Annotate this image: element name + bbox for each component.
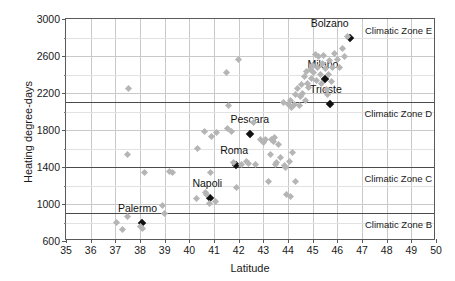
- data-point: [124, 151, 131, 158]
- x-tick: [288, 239, 289, 243]
- x-tick-label: 41: [208, 244, 220, 256]
- y-tick-minor: [64, 149, 66, 150]
- data-point: [265, 178, 272, 185]
- x-axis-title: Latitude: [65, 262, 435, 274]
- x-tick: [66, 239, 67, 243]
- x-tick-label: 39: [159, 244, 171, 256]
- data-point-labelled: [326, 100, 334, 108]
- data-point: [141, 169, 148, 176]
- x-tick: [337, 239, 338, 243]
- gridline-vertical: [288, 19, 289, 239]
- y-tick-minor: [64, 223, 66, 224]
- x-tick-label: 48: [381, 244, 393, 256]
- data-point: [169, 169, 176, 176]
- y-tick-minor: [64, 38, 66, 39]
- x-tick: [115, 239, 116, 243]
- y-tick-minor: [64, 186, 66, 187]
- x-tick-label: 49: [405, 244, 417, 256]
- zone-divider-line: [66, 102, 434, 103]
- data-point: [207, 169, 214, 176]
- y-tick-label: 2200: [37, 87, 60, 99]
- data-point: [339, 45, 346, 52]
- data-point: [201, 128, 208, 135]
- x-tick: [189, 239, 190, 243]
- x-tick: [362, 239, 363, 243]
- city-label-roma: Roma: [220, 144, 248, 156]
- x-tick-label: 38: [134, 244, 146, 256]
- data-point: [267, 151, 274, 158]
- data-point: [124, 213, 131, 220]
- city-label-palermo: Palermo: [118, 202, 157, 214]
- x-tick-label: 42: [233, 244, 245, 256]
- y-tick-label: 2600: [37, 50, 60, 62]
- gridline-horizontal-minor: [66, 149, 434, 150]
- y-tick: [62, 130, 66, 131]
- x-tick: [214, 239, 215, 243]
- gridline-vertical: [263, 19, 264, 239]
- x-tick-label: 50: [430, 244, 442, 256]
- gridline-vertical: [115, 19, 116, 239]
- x-tick-label: 46: [331, 244, 343, 256]
- gridline-horizontal-minor: [66, 186, 434, 187]
- gridline-vertical: [239, 19, 240, 239]
- data-point: [194, 145, 201, 152]
- y-tick: [62, 19, 66, 20]
- gridline-horizontal-minor: [66, 75, 434, 76]
- zone-divider-line: [66, 167, 434, 168]
- x-tick-label: 40: [183, 244, 195, 256]
- x-tick: [387, 239, 388, 243]
- x-tick: [140, 239, 141, 243]
- gridline-horizontal: [66, 93, 434, 94]
- y-tick-minor: [64, 75, 66, 76]
- data-point: [292, 178, 299, 185]
- y-tick: [62, 167, 66, 168]
- y-tick-label: 1000: [37, 198, 60, 210]
- x-tick: [436, 239, 437, 243]
- data-point: [113, 219, 120, 226]
- data-point: [299, 89, 306, 96]
- x-tick-label: 35: [60, 244, 72, 256]
- gridline-vertical: [411, 19, 412, 239]
- gridline-horizontal-minor: [66, 38, 434, 39]
- y-tick-label: 600: [42, 235, 60, 247]
- x-tick: [91, 239, 92, 243]
- x-tick-label: 37: [109, 244, 121, 256]
- data-point: [193, 195, 200, 202]
- x-tick-label: 44: [282, 244, 294, 256]
- gridline-vertical: [189, 19, 190, 239]
- y-axis-title: Heating degree-days: [22, 42, 34, 222]
- zone-label: Climatic Zone B: [365, 219, 432, 230]
- x-tick: [165, 239, 166, 243]
- plot-area: Climatic Zone EClimatic Zone DClimatic Z…: [65, 18, 435, 240]
- y-tick-label: 1400: [37, 161, 60, 173]
- y-tick-label: 3000: [37, 13, 60, 25]
- y-tick: [62, 241, 66, 242]
- zone-label: Climatic Zone C: [364, 173, 432, 184]
- data-point: [296, 102, 303, 109]
- x-tick: [313, 239, 314, 243]
- y-tick-label: 1800: [37, 124, 60, 136]
- y-tick-minor: [64, 112, 66, 113]
- y-tick: [62, 204, 66, 205]
- data-point: [235, 56, 242, 63]
- x-tick: [239, 239, 240, 243]
- data-point: [225, 102, 232, 109]
- gridline-vertical: [362, 19, 363, 239]
- data-point: [228, 128, 235, 135]
- city-label-napoli: Napoli: [192, 177, 222, 189]
- data-point: [161, 210, 168, 217]
- x-tick-label: 43: [257, 244, 269, 256]
- x-tick: [263, 239, 264, 243]
- data-point: [245, 160, 252, 167]
- y-tick: [62, 56, 66, 57]
- x-tick-label: 45: [307, 244, 319, 256]
- data-point: [125, 85, 132, 92]
- gridline-vertical: [91, 19, 92, 239]
- data-point: [289, 149, 296, 156]
- scatter-chart-figure: Heating degree-days Latitude Climatic Zo…: [0, 0, 455, 281]
- zone-label: Climatic Zone E: [365, 25, 432, 36]
- data-point: [341, 52, 348, 59]
- city-label-bolzano: Bolzano: [311, 17, 349, 29]
- x-tick: [411, 239, 412, 243]
- y-tick: [62, 93, 66, 94]
